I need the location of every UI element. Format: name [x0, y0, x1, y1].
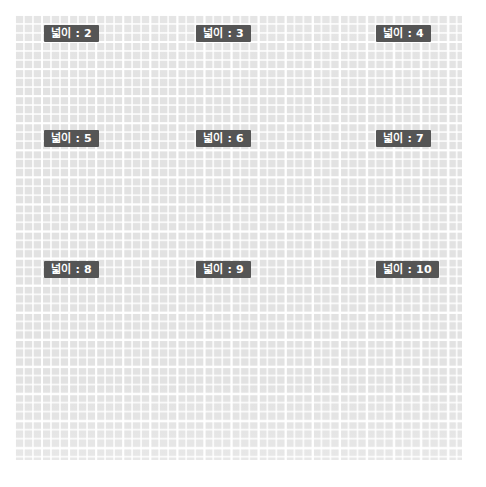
area-badge-7[interactable]: 넓이 : 7: [376, 130, 431, 147]
graph-paper-grid: [14, 14, 462, 460]
area-badge-8[interactable]: 넓이 : 8: [44, 261, 99, 278]
area-badge-9[interactable]: 넓이 : 9: [196, 261, 251, 278]
area-badge-5[interactable]: 넓이 : 5: [44, 130, 99, 147]
area-badge-3[interactable]: 넓이 : 3: [196, 25, 251, 42]
area-badge-2[interactable]: 넓이 : 2: [44, 25, 99, 42]
canvas: 넓이 : 2넓이 : 3넓이 : 4넓이 : 5넓이 : 6넓이 : 7넓이 :…: [0, 0, 486, 487]
area-badge-10[interactable]: 넓이 : 10: [376, 261, 439, 278]
area-badge-6[interactable]: 넓이 : 6: [196, 130, 251, 147]
area-badge-4[interactable]: 넓이 : 4: [376, 25, 431, 42]
